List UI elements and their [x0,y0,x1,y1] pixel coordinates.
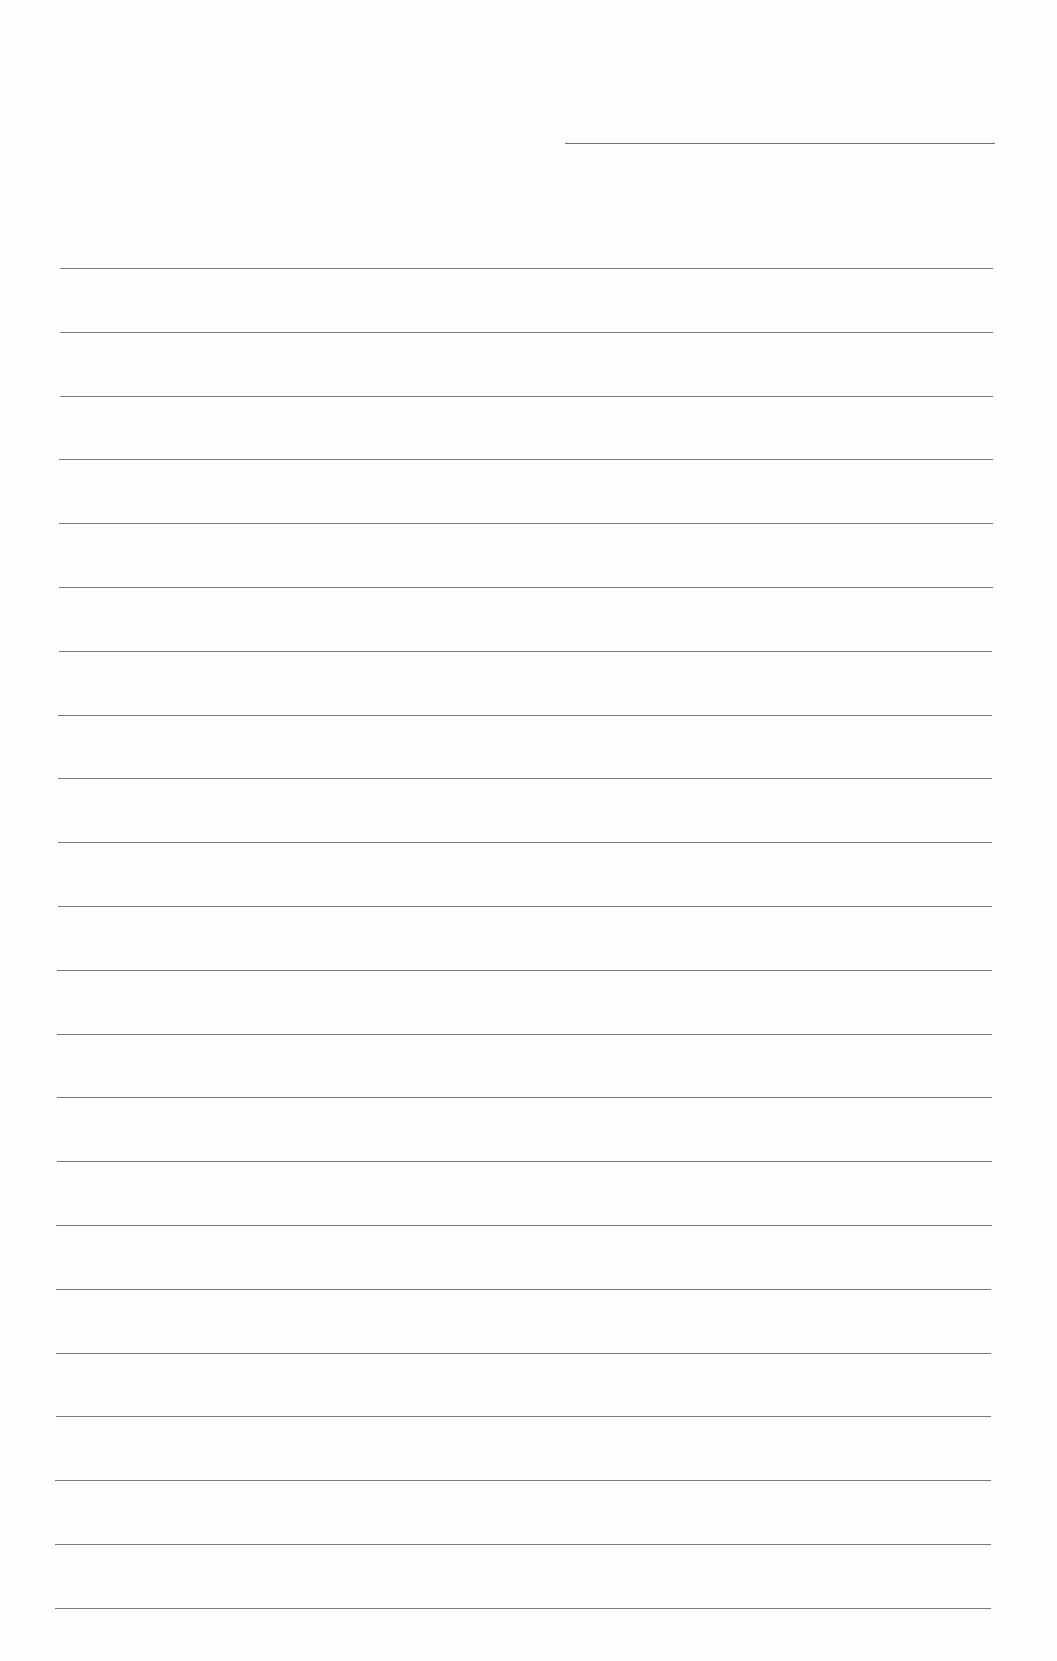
ruled-line [57,1097,992,1098]
ruled-line [59,459,992,460]
ruled-line [55,1608,991,1609]
ruled-line [60,396,993,397]
lined-paper-page [0,0,1057,1661]
ruled-line [58,906,992,907]
ruled-line [57,1034,992,1035]
ruled-lines-container [0,0,1057,1661]
ruled-line [59,651,993,652]
ruled-line [55,1544,991,1545]
ruled-line [59,587,993,588]
ruled-line [58,842,992,843]
ruled-line [60,268,993,269]
ruled-line [57,1161,992,1162]
ruled-line [56,1289,991,1290]
ruled-line [55,1480,991,1481]
ruled-line [57,970,992,971]
ruled-line [56,1225,991,1226]
ruled-line [58,778,992,779]
ruled-line [56,1353,991,1354]
ruled-line [58,715,992,716]
ruled-line [56,1416,992,1417]
ruled-line [60,332,993,333]
ruled-line [59,523,993,524]
